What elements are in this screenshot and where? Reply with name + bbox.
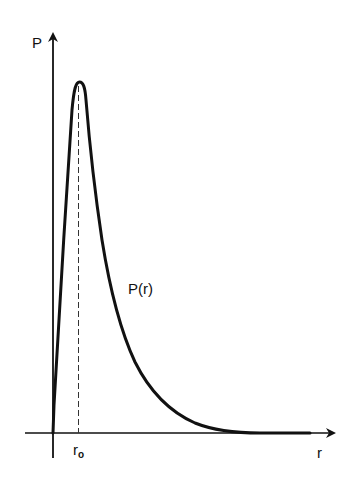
curve-label: P(r) xyxy=(128,280,153,297)
y-axis-label: P xyxy=(32,34,42,51)
r0-label: ro xyxy=(73,441,84,460)
chart-canvas: P r P(r) ro xyxy=(0,0,350,485)
x-axis-label: r xyxy=(317,444,322,461)
r0-label-subscript: o xyxy=(78,449,84,460)
distribution-curve xyxy=(53,82,310,433)
